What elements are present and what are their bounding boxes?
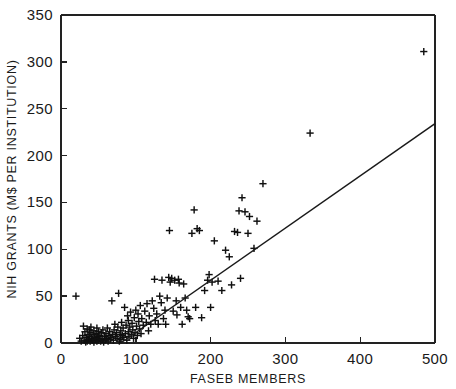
data-point [198, 314, 205, 321]
data-point [72, 293, 79, 300]
y-tick-label-200: 200 [27, 147, 53, 164]
chart-figure: 050100150200250300350 0100200300400500 F… [0, 0, 456, 389]
data-point [179, 321, 186, 328]
data-point [214, 278, 221, 285]
data-point [173, 311, 180, 318]
data-point [253, 218, 260, 225]
data-point [222, 247, 229, 254]
data-point [306, 129, 313, 136]
x-tick-label-300: 300 [272, 350, 298, 367]
y-axis-tick-labels: 050100150200250300350 [27, 6, 53, 351]
x-axis-title: FASEB MEMBERS [190, 372, 306, 386]
data-point [151, 276, 158, 283]
data-point [206, 271, 213, 278]
data-point [420, 48, 427, 55]
data-point [164, 294, 171, 301]
data-point [192, 304, 199, 311]
data-point [158, 277, 165, 284]
data-points [72, 48, 427, 346]
data-point [241, 208, 248, 215]
x-tick-label-500: 500 [422, 350, 448, 367]
data-point [211, 237, 218, 244]
data-point [137, 302, 144, 309]
data-point [235, 207, 242, 214]
regression-line [121, 124, 435, 343]
data-point [108, 297, 115, 304]
data-point [180, 280, 187, 287]
data-point [146, 312, 153, 319]
data-point [207, 304, 214, 311]
y-tick-label-50: 50 [36, 287, 54, 304]
data-point [188, 230, 195, 237]
data-point [191, 206, 198, 213]
data-point [201, 287, 208, 294]
x-tick-label-400: 400 [347, 350, 373, 367]
scatter-plot: 050100150200250300350 0100200300400500 F… [0, 0, 456, 389]
data-point [121, 304, 128, 311]
fit-line [121, 124, 435, 343]
data-point [156, 293, 163, 300]
data-point [238, 194, 245, 201]
y-tick-label-100: 100 [27, 240, 53, 257]
y-tick-label-250: 250 [27, 100, 53, 117]
y-tick-label-350: 350 [27, 6, 53, 23]
data-point [218, 287, 225, 294]
x-tick-label-0: 0 [57, 350, 66, 367]
data-point [166, 227, 173, 234]
x-tick-label-100: 100 [123, 350, 149, 367]
y-axis-title: NIH GRANTS (M$ PER INSTITUTION) [5, 59, 19, 298]
data-point [141, 308, 148, 315]
y-axis-ticks [61, 15, 67, 343]
y-tick-label-0: 0 [44, 334, 53, 351]
data-point [226, 253, 233, 260]
data-point [145, 327, 152, 334]
data-point [244, 230, 251, 237]
data-point [158, 299, 165, 306]
y-tick-label-150: 150 [27, 193, 53, 210]
y-tick-label-300: 300 [27, 53, 53, 70]
data-point [175, 276, 182, 283]
data-point [237, 275, 244, 282]
data-point [228, 281, 235, 288]
x-axis-tick-labels: 0100200300400500 [57, 350, 448, 367]
data-point [259, 180, 266, 187]
x-tick-label-200: 200 [197, 350, 223, 367]
data-point [246, 213, 253, 220]
data-point [115, 290, 122, 297]
